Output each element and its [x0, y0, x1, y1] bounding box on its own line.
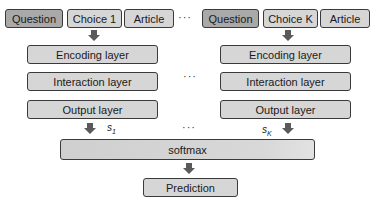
right-article-label: Article: [330, 13, 361, 25]
left-encoding-label: Encoding layer: [56, 49, 129, 61]
left-interaction-label: Interaction layer: [53, 76, 131, 88]
right-choice-label: Choice K: [268, 13, 313, 25]
right-interaction-label: Interaction layer: [246, 76, 324, 88]
score-sK: sK: [262, 124, 272, 137]
right-encoding-layer: Encoding layer: [220, 45, 351, 64]
left-output-label: Output layer: [63, 104, 123, 116]
left-encoding-layer: Encoding layer: [27, 45, 158, 64]
ellipsis-middle: ···: [183, 70, 197, 82]
down-arrow-icon: [282, 30, 294, 41]
left-interaction-layer: Interaction layer: [27, 72, 158, 91]
right-encoding-label: Encoding layer: [249, 49, 322, 61]
prediction-label: Prediction: [166, 182, 215, 194]
ellipsis-bottom: ···: [182, 121, 196, 133]
down-arrow-icon: [88, 30, 100, 41]
right-output-layer: Output layer: [220, 100, 351, 119]
left-article-box: Article: [124, 9, 174, 28]
right-output-label: Output layer: [256, 104, 316, 116]
right-choice-box: Choice K: [263, 9, 318, 28]
prediction-box: Prediction: [143, 178, 238, 197]
down-arrow-icon: [84, 123, 96, 134]
down-arrow-icon: [282, 123, 294, 134]
softmax-box: softmax: [60, 139, 315, 160]
left-question-box: Question: [5, 9, 63, 28]
left-article-label: Article: [134, 13, 165, 25]
right-question-box: Question: [202, 9, 259, 28]
ellipsis-top: ···: [178, 11, 192, 23]
score-subscript: 1: [112, 128, 116, 135]
right-question-label: Question: [208, 13, 252, 25]
left-choice-box: Choice 1: [67, 9, 122, 28]
left-choice-label: Choice 1: [73, 13, 116, 25]
down-arrow-icon: [183, 163, 195, 174]
right-article-box: Article: [320, 9, 370, 28]
softmax-label: softmax: [168, 144, 207, 156]
score-subscript: K: [267, 130, 272, 137]
right-interaction-layer: Interaction layer: [220, 72, 351, 91]
left-output-layer: Output layer: [27, 100, 158, 119]
left-question-label: Question: [12, 13, 56, 25]
score-s1: s1: [107, 122, 116, 135]
